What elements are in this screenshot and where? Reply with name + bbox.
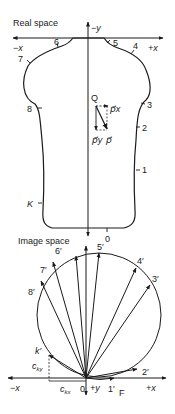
real-point-8: 8 <box>27 104 32 114</box>
vector-py-label: p⃗y <box>91 135 103 145</box>
vector-px-label: p⃗x <box>109 104 121 114</box>
image-origin-label: 0 <box>80 384 85 394</box>
ckx-label: ckx <box>60 384 72 395</box>
image-point-6: 6′ <box>55 246 62 256</box>
image-point-4: 4′ <box>137 256 144 266</box>
real-point-0: 0 <box>105 234 110 244</box>
real-neg-x-label: −x <box>13 43 23 53</box>
real-pos-x-label: +x <box>148 43 158 53</box>
point-q-label: Q <box>91 93 98 103</box>
image-point-7: 7′ <box>40 265 47 275</box>
image-pos-x-label: +x <box>146 383 156 393</box>
real-point-5: 5 <box>113 38 118 48</box>
image-space-title: Image space <box>18 236 70 246</box>
cky-label: cky <box>32 361 44 372</box>
image-point-k: k′ <box>35 346 42 356</box>
image-point-5: 5′ <box>97 242 104 252</box>
real-point-4: 4 <box>133 41 138 51</box>
image-point-3: 3′ <box>152 274 159 284</box>
real-space-title: Real space <box>13 18 58 28</box>
image-point-2: 2′ <box>142 367 149 377</box>
image-point-f: F <box>119 388 125 398</box>
body-contour <box>24 38 150 228</box>
real-point-1: 1 <box>142 165 147 175</box>
real-point-2: 2 <box>142 123 147 133</box>
real-neg-y-label: −y <box>91 23 101 33</box>
diagram-canvas: Real space −y −x +x 1 2 3 4 5 6 7 8 K 0 … <box>0 0 175 414</box>
vector-p <box>96 106 107 129</box>
real-point-6: 6 <box>54 37 59 47</box>
image-point-8: 8′ <box>28 287 35 297</box>
image-pos-y-label: +y <box>90 383 100 393</box>
real-point-k: K <box>27 199 34 209</box>
real-point-7: 7 <box>18 54 23 64</box>
real-point-3: 3 <box>147 100 152 110</box>
vector-p-label: p⃗ <box>105 135 112 145</box>
image-point-1: 1′ <box>108 384 115 394</box>
image-neg-x-label: −x <box>10 383 20 393</box>
